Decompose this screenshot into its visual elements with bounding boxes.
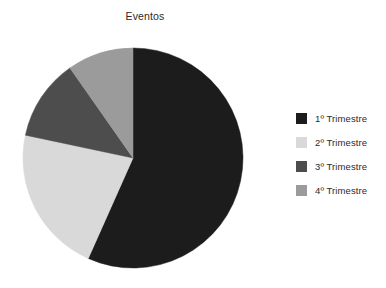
legend-swatch-icon <box>296 137 307 148</box>
legend-swatch-icon <box>296 113 307 124</box>
legend-item-label: 1º Trimestre <box>315 113 367 124</box>
legend-swatch-icon <box>296 185 307 196</box>
legend-item-label: 3º Trimestre <box>315 161 367 172</box>
pie-slice-group <box>23 48 243 268</box>
legend-item[interactable]: 4º Trimestre <box>296 178 386 202</box>
legend-swatch-icon <box>296 161 307 172</box>
legend-item[interactable]: 3º Trimestre <box>296 154 386 178</box>
legend-item-label: 2º Trimestre <box>315 137 367 148</box>
legend-item-label: 4º Trimestre <box>315 185 367 196</box>
legend-item[interactable]: 2º Trimestre <box>296 130 386 154</box>
pie-chart: Eventos 1º Trimestre2º Trimestre3º Trime… <box>0 0 386 288</box>
chart-title: Eventos <box>0 9 290 23</box>
legend-item[interactable]: 1º Trimestre <box>296 106 386 130</box>
pie-svg <box>0 28 286 280</box>
chart-legend: 1º Trimestre2º Trimestre3º Trimestre4º T… <box>296 106 386 202</box>
pie-plot-area <box>0 28 286 280</box>
